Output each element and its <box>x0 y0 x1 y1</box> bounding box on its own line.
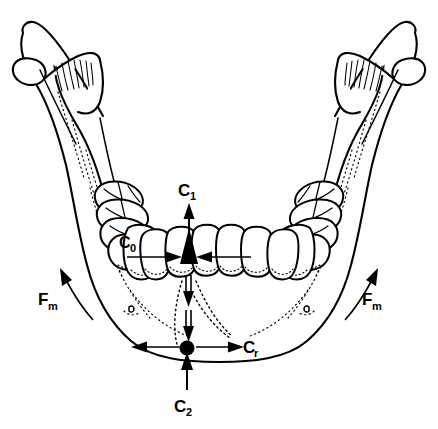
label-fm-left-sub: m <box>48 300 58 312</box>
label-fm-left-base: F <box>38 290 49 309</box>
diagram-canvas: C 1 C 0 C r C 2 F m F m <box>0 0 438 429</box>
label-c2-sub: 2 <box>186 406 192 418</box>
incisor-group <box>140 225 298 280</box>
label-fm-right-sub: m <box>372 300 382 312</box>
label-c0-sub: 0 <box>130 242 136 254</box>
mandible-force-diagram: C 1 C 0 C r C 2 F m F m <box>0 0 438 429</box>
label-c2-base: C <box>174 397 186 416</box>
label-c1-sub: 1 <box>190 190 196 202</box>
tooth-incisor-far-right <box>267 229 298 279</box>
label-fm-right-base: F <box>362 290 373 309</box>
label-c1-base: C <box>178 181 190 200</box>
label-cr-sub: r <box>254 347 259 359</box>
